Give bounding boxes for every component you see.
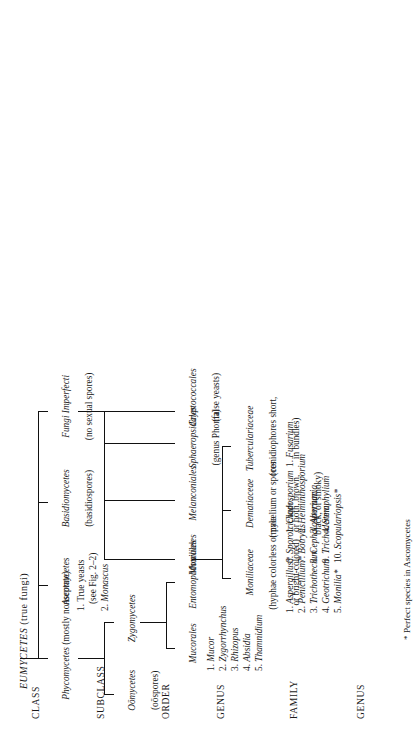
root-stem [20,658,38,659]
node-cryptococcales-name: Cryptococcales [188,368,198,426]
list-item-number: 2. [297,526,307,533]
node-oomycetes: Oömycetes (oöspores) [116,663,173,727]
row-header-family: FAMILY [288,680,300,719]
node-tuberculariaceae-name: Tuberculariaceae [245,406,255,471]
list-item: 3. Alternaria [309,454,321,533]
list-item-text: Monascus [100,564,110,602]
list-item: (see Fig. 2–2) [88,553,100,611]
list-item-text: Absidia [242,633,252,661]
list-item: 2. Zygorrhynchus [218,606,230,671]
node-ascomycetes-name: Ascomycetes [61,558,71,606]
phycomycetes-stem [78,658,104,659]
subclass-bracket [104,623,105,695]
list-item-number: 1. [76,604,86,611]
list-item: 1. True yeasts [76,553,88,611]
node-dematiaceae-name: Dematiaceae [245,479,255,528]
list-item-number: 6. [285,556,295,563]
list-item: 1. Mucor [206,606,218,671]
list-item-text: Stemphylium [321,476,331,524]
node-zygomycetes-name: Zygomycetes [127,594,137,642]
list-item-text: Monilia* [333,570,343,604]
node-oomycetes-name: Oömycetes [127,670,137,711]
list-item-number: 4. [242,664,252,671]
list-item-number: 10. [333,551,343,563]
subclass-tick-oomycetes [104,694,114,695]
list-item-number: 4. [321,606,331,613]
list-item-text: (see Fig. 2–2) [88,553,98,604]
rotated-figure-wrapper: CLASS SUBCLASS ORDER GENUS FAMILY GENUS … [0,0,418,729]
imperfecti-connector [104,412,105,560]
node-zygomycetes: Zygomycetes [116,589,150,657]
node-moniliales-name: Moniliales [188,534,198,574]
list-tuberculariaceae-genera: 1. Fusarium [285,422,297,467]
subclass-tick-zygomycetes [104,622,114,623]
family-tick-tuberculariaceae [222,446,231,447]
class-tick-fungi-imperfecti [38,411,48,412]
family-bracket [222,447,223,579]
node-basidiomycetes: Basidiomycetes (basidiospores) [50,458,107,548]
list-item: 1. Fusarium [285,422,297,467]
list-item-text: Penicillium* [297,556,307,604]
list-item-number: 2. [218,664,228,671]
class-tick-ascomycetes [38,585,48,586]
list-item-text: Aspergillus* [285,557,295,604]
list-item: 2. Monascus [100,553,112,611]
list-item-text: Scopulariopsis* [333,489,343,549]
class-tick-phycomycetes [38,658,48,659]
order-tick-melanconiales [104,500,175,501]
node-fungi-imperfecti-name: Fungi Imperfecti [61,375,71,438]
list-item-number: 5. [254,664,264,671]
row-header-genus-2: GENUS [355,684,367,719]
list-item-number: 2. [297,606,307,613]
list-item-text: Helminthosporium [297,454,307,524]
order-tick-moniliales [104,559,175,560]
list-item: 4. Stemphylium [321,454,333,533]
row-header-genus-1: GENUS [215,684,227,719]
node-basidiomycetes-note: (basidiospores) [84,470,94,527]
list-item-number: 3. [309,606,319,613]
list-item-text: Geotrichum [321,559,331,603]
figure-footnote-text: * Perfect species in Ascomycetes [402,519,412,640]
list-item-text: Zygorrhynchus [218,606,228,662]
order-tick-cryptococcales [104,411,175,412]
fungi-imperfecti-stem [78,411,104,412]
list-item-text: Mucor [206,637,216,662]
figure-footnote: * Perfect species in Ascomycetes [392,519,418,649]
taxonomy-chart-canvas: CLASS SUBCLASS ORDER GENUS FAMILY GENUS … [0,0,418,729]
list-item-text: Rhizopus [230,628,240,662]
list-item-text: Thamnidium [254,615,264,662]
list-item: 2. Helminthosporium [297,454,309,533]
figure-title-note: (true fungi) [18,573,29,628]
node-mucorales-name: Mucorales [188,623,198,663]
list-item-number: 3. [230,664,240,671]
node-phycomycetes: Phycomycetes (mostly nonseptate) [50,605,84,709]
family-tick-dematiaceae [222,510,231,511]
node-phycomycetes-name: Phycomycetes [61,647,71,700]
list-item-number: 1. [285,526,295,533]
node-oomycetes-note: (oöspores) [150,671,160,710]
list-item-number: 2. [100,604,110,611]
list-item: 10. Scopulariopsis* [333,489,345,563]
node-basidiomycetes-name: Basidiomycetes [61,469,71,527]
order-tick-sphaeropsidales [104,443,175,444]
class-bracket [38,412,39,659]
list-item-number: 9. [321,556,331,563]
order-tick-mucorales [166,648,175,649]
list-item-number: 1. [285,460,295,467]
list-item-text: Cladosporium [285,470,295,523]
list-item-number: 5. [333,606,343,613]
node-moniliaceae-name: Moniliaceae [245,549,255,595]
family-tick-moniliaceae [222,578,231,579]
class-tick-basidiomycetes [38,502,48,503]
moniliales-stem [192,559,222,560]
list-item-text: Alternaria [309,485,319,524]
list-ascomycetes-items: 1. True yeasts (see Fig. 2–2) 2. Monascu… [76,553,112,611]
list-item-number: 1. [206,664,216,671]
node-tuberculariaceae-note-1: (conidiophores short, [268,397,278,476]
order-tick-entomophthorales [166,582,175,583]
list-item-number: 7. [297,556,307,563]
list-item-text: Fusarium [285,422,295,458]
list-item-number: 8. [309,556,319,563]
list-item-number: 4. [321,526,331,533]
node-cryptococcales: Cryptococcales (false yeasts) [177,364,234,440]
